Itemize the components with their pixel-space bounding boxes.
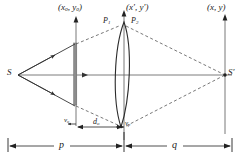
image-distance-label: q xyxy=(172,140,177,150)
lens-thickness-label: do xyxy=(93,118,99,127)
diagram-canvas xyxy=(0,0,240,158)
separation-dimension xyxy=(77,125,123,129)
image-point-marker xyxy=(223,73,226,76)
dimension-baseline xyxy=(8,132,232,152)
biconvex-lens xyxy=(115,22,129,127)
source-label: S xyxy=(7,68,12,77)
optics-ray-diagram: S S′ (xo, yo) (x′, y′) (x, y) P1 P2 vo v… xyxy=(0,0,240,158)
principal-point-1-label: P1 xyxy=(103,17,110,26)
object-bar xyxy=(74,43,77,105)
principal-point-2-label: P2 xyxy=(131,17,138,26)
refracted-rays xyxy=(76,26,225,126)
optical-axis xyxy=(18,73,232,78)
lens-velocity-label: vp xyxy=(125,120,130,127)
image-label: S′ xyxy=(228,68,234,77)
object-plane-coords-label: (xo, yo) xyxy=(58,3,82,13)
object-velocity-label: vo xyxy=(64,117,69,124)
object-distance-dimension xyxy=(9,140,123,152)
object-distance-label: p xyxy=(59,140,64,150)
lens-plane-coords-label: (x′, y′) xyxy=(126,3,148,12)
image-plane-coords-label: (x, y) xyxy=(207,3,225,12)
image-distance-dimension xyxy=(125,140,231,152)
